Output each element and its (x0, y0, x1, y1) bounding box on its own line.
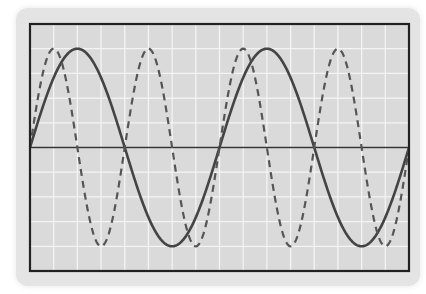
waveform-chart (0, 0, 426, 294)
